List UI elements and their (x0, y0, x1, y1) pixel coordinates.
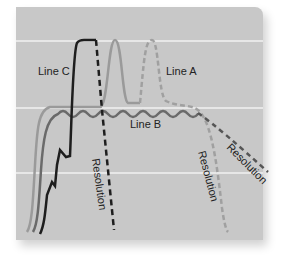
label-resolution-c: Resolution (90, 158, 109, 211)
label-line-c: Line C (38, 65, 70, 77)
line-diagram: Line C Line A Line B Resolution Resoluti… (0, 0, 281, 256)
label-line-a: Line A (166, 65, 197, 77)
label-resolution-b: Resolution (225, 141, 270, 186)
label-line-b: Line B (130, 118, 161, 130)
